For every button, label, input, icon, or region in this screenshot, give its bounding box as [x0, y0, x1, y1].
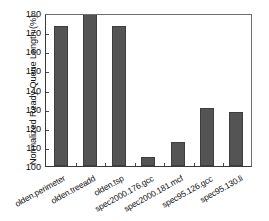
y-axis-tick-label: 180	[26, 9, 41, 19]
y-axis-tick-label: 120	[26, 124, 41, 134]
chart-figure: Normalized Ready Queue Length (%) 100110…	[0, 0, 269, 221]
x-axis-tick-mark	[76, 163, 77, 166]
y-axis-tick-mark	[46, 130, 49, 131]
bar[interactable]	[229, 112, 243, 167]
bar-slot	[163, 15, 192, 166]
y-axis-tick-mark	[46, 72, 49, 73]
y-axis-tick-mark	[46, 34, 49, 35]
bar[interactable]	[54, 26, 68, 166]
x-axis-tick-mark	[105, 163, 106, 166]
x-axis-tick-mark	[194, 163, 195, 166]
y-axis-tick-label: 150	[26, 66, 41, 76]
x-axis-tick-mark	[135, 163, 136, 166]
bar-slot	[46, 15, 75, 166]
x-axis-tick-mark	[164, 163, 165, 166]
y-axis-tick-label: 170	[26, 28, 41, 38]
y-axis-tick-mark	[46, 149, 49, 150]
plot-area	[45, 14, 252, 167]
bar[interactable]	[83, 14, 97, 166]
bar[interactable]	[141, 157, 155, 166]
y-axis-tick-label: 140	[26, 86, 41, 96]
x-axis-tick-mark	[223, 163, 224, 166]
bar-slot	[75, 15, 104, 166]
bar[interactable]	[112, 26, 126, 166]
bar-slot	[192, 15, 221, 166]
bar-series	[46, 15, 251, 166]
y-axis-tick-mark	[46, 111, 49, 112]
bar-slot	[105, 15, 134, 166]
y-axis-tick-mark	[46, 92, 49, 93]
bar-slot	[134, 15, 163, 166]
y-axis-tick-mark	[46, 53, 49, 54]
y-axis-tick-label: 130	[26, 105, 41, 115]
y-axis-tick-label: 110	[26, 143, 41, 153]
bar-slot	[222, 15, 251, 166]
bar[interactable]	[200, 108, 214, 166]
x-axis-category-labels: olden.perimeterolden.treeaddolden.tspspe…	[0, 167, 269, 221]
y-axis-tick-label: 160	[26, 47, 41, 57]
bar[interactable]	[171, 142, 185, 166]
